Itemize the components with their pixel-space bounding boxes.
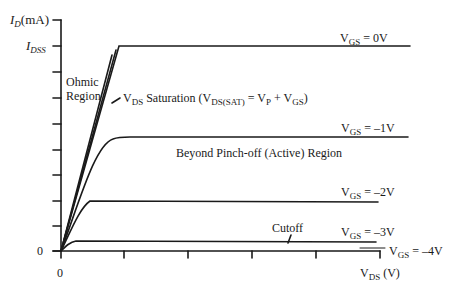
y-tick-idss: IDSS [26,39,46,55]
label-vgs-minus-3v: VGS = –3V [341,226,395,241]
y-tick-zero: 0 [37,245,43,257]
active-region-label: Beyond Pinch-off (Active) Region [176,147,342,159]
sat-leader-line [112,98,120,103]
y-axis-label: ID(mA) [10,13,49,29]
x-tick-zero: 0 [57,267,63,279]
cutoff-label: Cutoff [272,222,303,234]
label-vgs-minus-4v: VGS = –4V [389,245,443,260]
curve-vgs-minus-3v [61,241,376,251]
label-vgs-minus-2v: VGS = –2V [341,186,395,201]
label-vgs-0v: VGS = 0V [340,32,388,47]
y-axis-ticks [53,20,61,251]
ohmic-region-label: Ohmic Region [66,75,101,103]
curve-vgs-minus-2v [61,201,378,251]
x-axis-label: VDS (V) [360,267,400,282]
x-axis-ticks [61,251,380,258]
vds-saturation-label: VDS Saturation (VDS(SAT) = VP + VGS) [123,92,308,107]
label-vgs-minus-1v: VGS = –1V [341,122,395,137]
